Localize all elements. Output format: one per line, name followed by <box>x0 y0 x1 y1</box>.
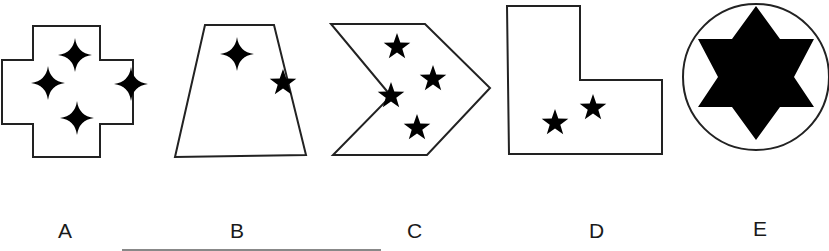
option-e-circle <box>683 4 829 150</box>
option-a-cross <box>2 26 148 157</box>
option-b-trapezoid <box>175 25 306 157</box>
trapezoid-shape <box>175 25 306 157</box>
label-a: A <box>58 219 72 242</box>
option-c-chevron <box>331 24 490 155</box>
cross-shape <box>2 26 133 157</box>
shapes-figure: A B C D E <box>0 0 829 251</box>
label-c: C <box>407 219 422 242</box>
label-e: E <box>753 217 767 240</box>
label-d: D <box>589 219 604 242</box>
l-shape <box>507 6 662 154</box>
option-d-l-shape <box>507 6 662 154</box>
label-b: B <box>230 219 244 242</box>
